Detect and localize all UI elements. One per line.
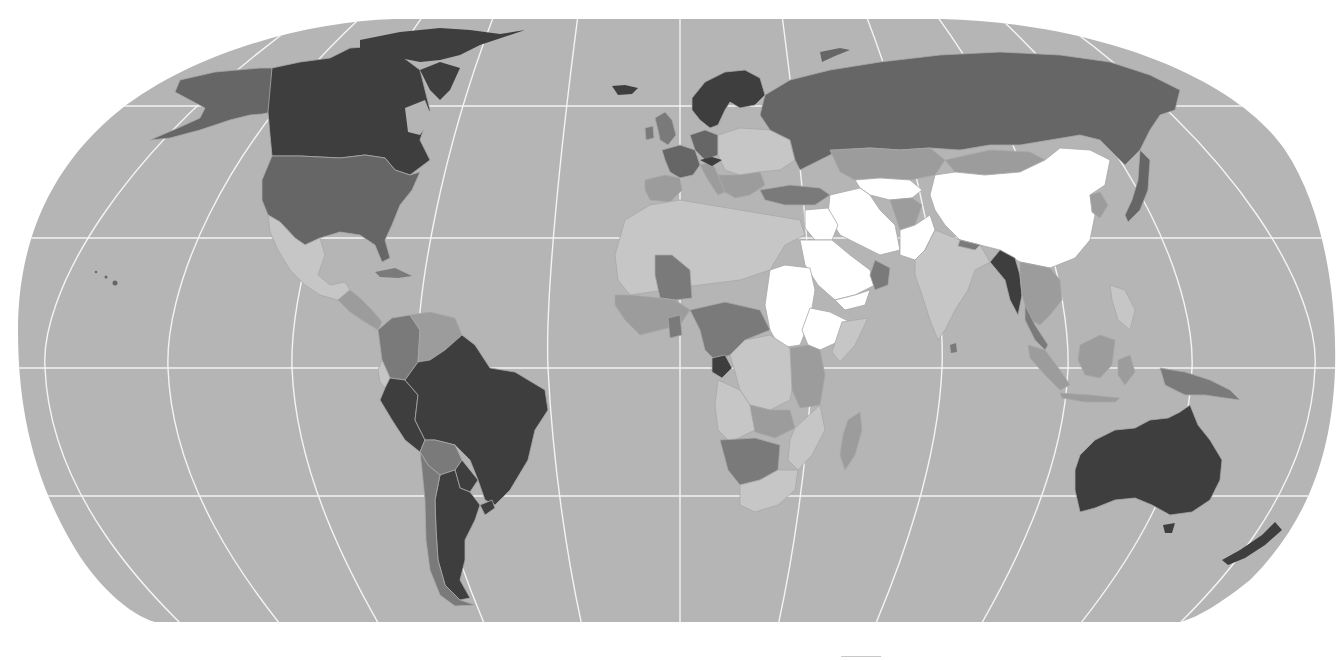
map-svg	[0, 0, 1337, 660]
region-hawaii	[113, 281, 118, 286]
region-ghana	[668, 315, 682, 338]
region-kazakhstan	[830, 148, 945, 180]
world-choropleth-map	[0, 0, 1337, 660]
legend-edge	[841, 656, 881, 660]
region-ireland	[645, 126, 654, 140]
